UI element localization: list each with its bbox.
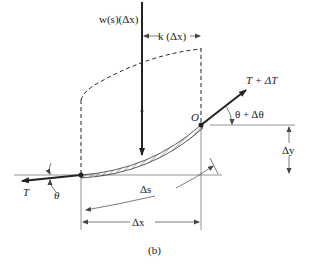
cable-element-diagram: w(s)(Δx) k (Δx) T + ΔT θ + Δθ O Δy T θ Δ…: [0, 0, 320, 265]
point-left: [79, 173, 84, 178]
figure-caption: (b): [148, 244, 161, 257]
angle-arc-right: [226, 106, 232, 124]
k-label: k (Δx): [158, 30, 186, 43]
delta-s-arc-upper: [176, 166, 213, 188]
delta-y-label: Δy: [282, 144, 295, 156]
angle-left-label: θ: [54, 189, 60, 201]
point-o: [199, 123, 204, 128]
angle-arc-left: [49, 163, 51, 174]
load-arrow-midpoint: [141, 110, 144, 113]
tension-right-label: T + ΔT: [246, 74, 278, 86]
delta-s-tick: [210, 158, 218, 174]
delta-s-label: Δs: [140, 183, 151, 195]
tension-left-label: T: [23, 186, 30, 198]
origin-label: O: [191, 111, 199, 123]
delta-s-arc-lower: [86, 196, 155, 210]
tension-left-arrow: [22, 175, 81, 181]
angle-right-label: θ + Δθ: [235, 108, 264, 120]
load-label: w(s)(Δx): [99, 13, 139, 26]
delta-x-label: Δx: [132, 216, 145, 228]
